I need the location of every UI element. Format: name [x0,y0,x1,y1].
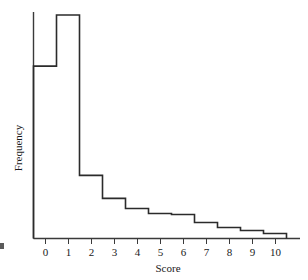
x-tick-label-6: 6 [181,246,187,258]
x-tick-label-2: 2 [89,246,95,258]
x-tick-label-8: 8 [227,246,233,258]
y-axis-title: Frequency [12,124,24,171]
x-tick-label-1: 1 [66,246,72,258]
histogram-chart: 0 1 2 3 4 5 6 7 8 9 10 Score Frequency [0,0,308,280]
x-tick-label-3: 3 [112,246,118,258]
figure-container: 0 1 2 3 4 5 6 7 8 9 10 Score Frequency [0,0,308,280]
x-tick-label-7: 7 [204,246,210,258]
histogram-outline [34,15,287,239]
x-tick-label-5: 5 [158,246,164,258]
x-tick-label-4: 4 [135,246,141,258]
x-tick-label-9: 9 [250,246,256,258]
x-tick-label-10: 10 [270,246,282,258]
page-edge-artifact [0,243,4,249]
x-tick-label-0: 0 [43,246,49,258]
x-axis-title: Score [155,262,180,274]
x-axis-ticks [46,239,276,245]
